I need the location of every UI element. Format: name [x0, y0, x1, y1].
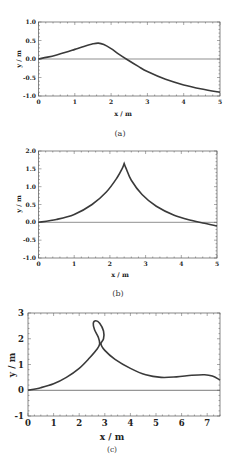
x-tick-label: 6: [179, 418, 185, 428]
y-tick-label: 0.0: [26, 218, 36, 225]
x-tick-label: 1: [73, 98, 77, 105]
caption-a: (a): [114, 129, 125, 138]
y-tick-label: 0.5: [26, 201, 36, 208]
chart-a: 1.0 0.5 0.0 -0.5 -1.0 0 1 2 3 4 5 x / m …: [15, 18, 222, 138]
y-axis-label-b: y / m: [15, 195, 23, 214]
x-tick-label: 5: [153, 418, 159, 428]
tick-marks-b: [39, 151, 218, 258]
plot-frame-b: [39, 151, 218, 258]
x-axis-label-b: x / m: [111, 271, 129, 279]
x-tick-label: 3: [102, 418, 108, 428]
x-tick-label: 0: [25, 418, 31, 428]
chart-c: 3 2 1 0 -1 0 1 2 3 4 5 6 7 x / m y / m (…: [7, 308, 220, 454]
y-tick-label: -0.5: [23, 74, 36, 81]
x-tick-label: 0: [36, 260, 40, 267]
caption-b: (b): [112, 289, 123, 298]
x-tick-label: 5: [218, 98, 222, 105]
x-tick-label: 1: [72, 260, 76, 267]
y-tick-label: 3: [18, 308, 24, 318]
x-tick-label: 4: [127, 418, 133, 428]
x-tick-label: 3: [145, 98, 149, 105]
x-tick-label: 7: [204, 418, 210, 428]
x-tick-label: 0: [36, 98, 40, 105]
x-tick-label: 1: [51, 418, 57, 428]
trajectory-curve-b: [39, 163, 218, 225]
caption-c: (c): [107, 445, 117, 454]
y-tick-label: -0.5: [23, 236, 36, 243]
y-tick-label: 0: [18, 385, 24, 395]
x-tick-label: 4: [182, 98, 186, 105]
y-tick-label: -1.0: [23, 92, 36, 99]
x-tick-label: 5: [215, 260, 219, 267]
y-axis-label-a: y / m: [15, 50, 23, 69]
x-axis-label-a: x / m: [114, 110, 132, 118]
y-tick-label: 1.5: [26, 165, 36, 172]
x-tick-label: 2: [109, 98, 113, 105]
y-tick-label: 0.0: [26, 55, 36, 62]
chart-b: 2.0 1.5 1.0 0.5 0.0 -0.5 -1.0 0 1 2 3 4 …: [15, 147, 219, 298]
x-tick-label: 2: [76, 418, 82, 428]
trajectory-curve-c: [28, 321, 220, 391]
y-tick-label: -1: [15, 411, 25, 421]
x-axis-label-c: x / m: [100, 432, 125, 442]
y-tick-label: 1: [18, 360, 24, 370]
y-tick-label: 2: [18, 334, 24, 344]
figure: 1.0 0.5 0.0 -0.5 -1.0 0 1 2 3 4 5 x / m …: [0, 0, 235, 470]
y-tick-label: 1.0: [26, 18, 36, 25]
x-tick-label: 3: [144, 260, 148, 267]
y-tick-label: 0.5: [26, 37, 36, 44]
y-tick-label: 1.0: [26, 183, 36, 190]
y-tick-label: -1.0: [23, 254, 36, 261]
x-tick-label: 2: [108, 260, 112, 267]
trajectory-curve-a: [39, 43, 221, 92]
x-tick-label: 4: [179, 260, 183, 267]
y-axis-label-c: y / m: [7, 352, 17, 378]
y-tick-label: 2.0: [26, 147, 36, 154]
